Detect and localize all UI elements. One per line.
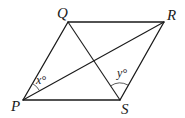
vertex-label-q: Q: [57, 5, 68, 21]
angle-label-x: x°: [35, 73, 46, 87]
parallelogram-diagram: Q R P S x° y°: [0, 0, 185, 118]
vertex-label-r: R: [166, 7, 176, 23]
diagonal-qs: [68, 22, 120, 100]
angle-label-y: y°: [116, 66, 127, 80]
vertex-label-s: S: [121, 101, 129, 117]
angle-arc-y: [111, 83, 129, 86]
vertex-label-p: P: [10, 98, 20, 114]
side-pq: [23, 22, 68, 100]
